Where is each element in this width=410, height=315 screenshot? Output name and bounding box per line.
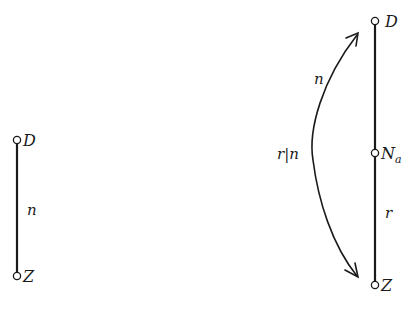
arc-label-r-divides-n: r|n	[277, 145, 299, 163]
right-node-z	[371, 281, 378, 288]
right-label-na-subscript: a	[395, 153, 402, 166]
arc-label-n: n	[314, 70, 324, 88]
right-label-d: D	[384, 12, 398, 31]
lattice-diagram: D Z n D Na Z r n r|n	[0, 0, 410, 315]
right-node-d	[371, 17, 378, 24]
left-label-d: D	[22, 131, 36, 150]
left-edge-label-n: n	[27, 201, 37, 219]
left-node-z	[13, 272, 20, 279]
left-label-z: Z	[22, 267, 35, 286]
right-label-na-main: N	[380, 144, 396, 163]
right-edge-label-r: r	[385, 204, 393, 222]
right-label-z: Z	[380, 276, 393, 295]
right-label-na: Na	[380, 144, 402, 166]
right-lattice: D Na Z r n r|n	[277, 12, 402, 295]
left-lattice: D Z n	[13, 131, 36, 286]
left-node-d	[13, 136, 20, 143]
right-node-na	[371, 149, 378, 156]
